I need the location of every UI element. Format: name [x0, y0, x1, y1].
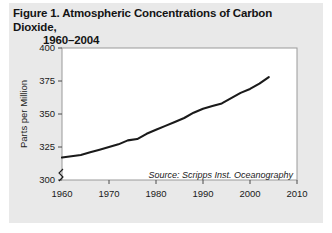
- chart-plot-area: 300325350375400 196019701980199020002010…: [0, 0, 332, 233]
- x-axis-tick-label: 2010: [286, 188, 307, 199]
- plot-background: [62, 48, 297, 180]
- y-axis-ticks: [58, 48, 62, 180]
- line-chart-svg: 300325350375400 196019701980199020002010…: [0, 0, 332, 233]
- y-axis-tick-label: 400: [39, 42, 55, 53]
- x-axis-tick-labels: 196019701980199020002010: [51, 188, 307, 199]
- y-axis-tick-label: 375: [39, 75, 55, 86]
- source-note: Source: Scripps Inst. Oceanography: [148, 170, 293, 180]
- x-axis-tick-label: 1980: [145, 188, 166, 199]
- x-axis-tick-label: 1990: [192, 188, 213, 199]
- y-axis-title: Parts per Million: [18, 80, 29, 148]
- y-axis-tick-labels: 300325350375400: [39, 42, 55, 185]
- x-axis-tick-label: 1960: [51, 188, 72, 199]
- x-axis-tick-label: 1970: [98, 188, 119, 199]
- y-axis-tick-label: 325: [39, 141, 55, 152]
- x-axis-ticks: [109, 180, 297, 184]
- y-axis-tick-label: 350: [39, 108, 55, 119]
- x-axis-tick-label: 2000: [239, 188, 260, 199]
- y-axis-tick-label: 300: [39, 174, 55, 185]
